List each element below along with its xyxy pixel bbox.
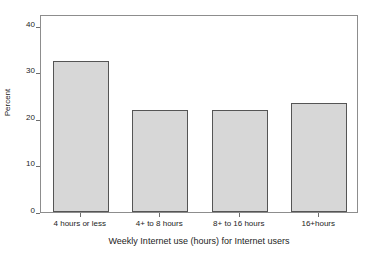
y-axis-title: Percent	[3, 73, 12, 133]
x-axis-tick-mark	[239, 213, 240, 217]
bar-chart-figure: 010203040 Percent 4 hours or less4+ to 8…	[0, 0, 373, 262]
x-axis-tick-label: 4+ to 8 hours	[114, 219, 204, 228]
bar	[132, 110, 188, 212]
x-axis-tick-mark	[159, 213, 160, 217]
y-axis-tick-label: 10	[26, 160, 35, 168]
y-axis-tick-label: 30	[26, 67, 35, 75]
bar	[212, 110, 268, 212]
bar	[53, 61, 109, 212]
clipped-header-text	[8, 0, 308, 4]
x-axis-tick-label: 8+ to 16 hours	[194, 219, 284, 228]
x-axis-tick-label: 16+hours	[273, 219, 363, 228]
x-axis-tick-label: 4 hours or less	[35, 219, 125, 228]
bar	[291, 103, 347, 212]
x-axis-title: Weekly Internet use (hours) for Internet…	[40, 236, 358, 247]
plot-area	[41, 16, 357, 212]
x-axis-tick-mark	[318, 213, 319, 217]
y-axis-tick-label: 40	[26, 21, 35, 29]
plot-frame	[40, 15, 358, 213]
x-axis-tick-mark	[80, 213, 81, 217]
y-axis-tick-label: 20	[26, 114, 35, 122]
